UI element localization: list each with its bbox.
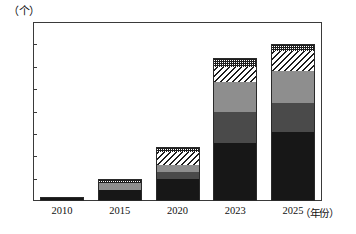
bar-2020	[156, 22, 200, 201]
bar-outline	[40, 197, 84, 201]
bar-2010	[40, 22, 84, 201]
bar-2025	[271, 22, 315, 201]
y-tick-mark	[33, 134, 37, 135]
y-tick-mark	[33, 179, 37, 180]
y-tick-mark	[33, 89, 37, 90]
bar-outline	[156, 147, 200, 201]
x-tick-label-2020: 2020	[148, 205, 208, 216]
bar-outline	[271, 44, 315, 201]
y-axis: 01020304050607080	[0, 0, 33, 234]
bar-outline	[98, 179, 142, 201]
y-tick-mark	[33, 67, 37, 68]
bar-2015	[98, 22, 142, 201]
stacked-bar-chart: （个） 01020304050607080 201020152020202320…	[0, 0, 356, 234]
y-tick-mark	[33, 156, 37, 157]
x-tick-label-2015: 2015	[90, 205, 150, 216]
y-tick-mark	[33, 44, 37, 45]
bar-outline	[213, 58, 257, 201]
x-axis-unit-label: （年份）	[300, 205, 338, 220]
y-tick-mark	[33, 112, 37, 113]
x-tick-label-2023: 2023	[205, 205, 265, 216]
x-tick-label-2010: 2010	[32, 205, 92, 216]
bar-2023	[213, 22, 257, 201]
